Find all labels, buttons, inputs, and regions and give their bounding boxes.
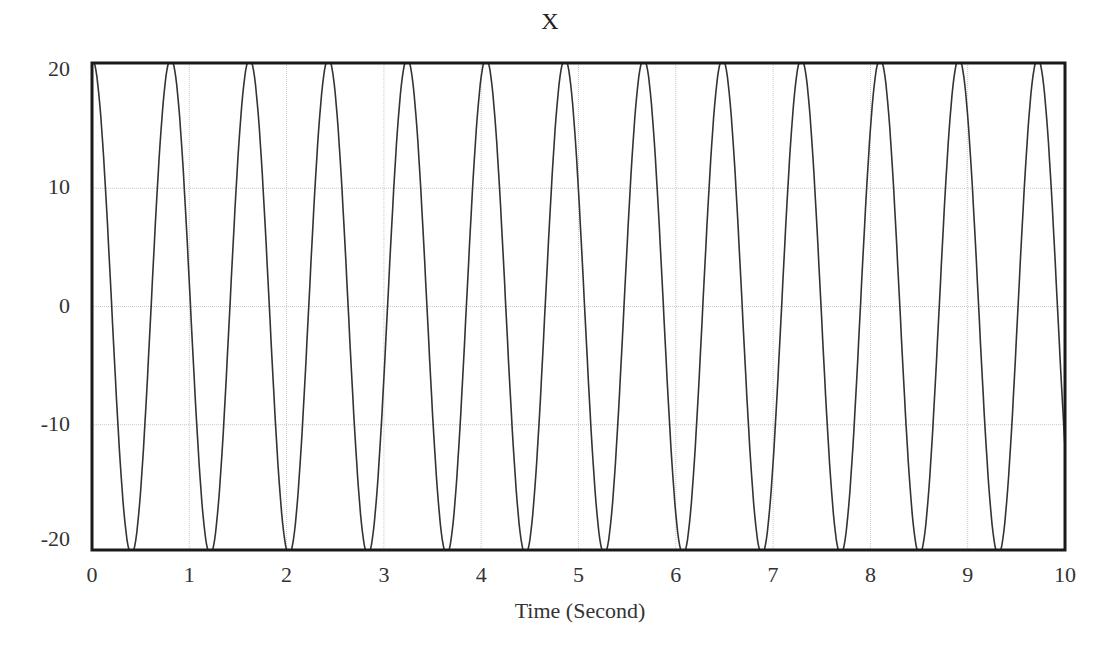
x-tick-label: 10 — [1035, 562, 1095, 588]
x-tick-label: 7 — [743, 562, 803, 588]
y-tick-label: 0 — [0, 293, 70, 319]
x-tick-label: 5 — [549, 562, 609, 588]
y-tick-label: -20 — [0, 526, 70, 552]
x-tick-label: 8 — [840, 562, 900, 588]
x-tick-label: 9 — [938, 562, 998, 588]
x-tick-label: 0 — [62, 562, 122, 588]
y-tick-label: -10 — [0, 411, 70, 437]
x-axis-label: Time (Second) — [0, 598, 1100, 624]
x-tick-label: 3 — [354, 562, 414, 588]
x-tick-label: 4 — [451, 562, 511, 588]
y-tick-label: 10 — [0, 174, 70, 200]
x-tick-label: 6 — [646, 562, 706, 588]
line-chart — [0, 0, 1100, 653]
x-tick-label: 2 — [257, 562, 317, 588]
x-tick-label: 1 — [159, 562, 219, 588]
grid-lines — [92, 63, 1065, 550]
y-tick-label: 20 — [0, 56, 70, 82]
